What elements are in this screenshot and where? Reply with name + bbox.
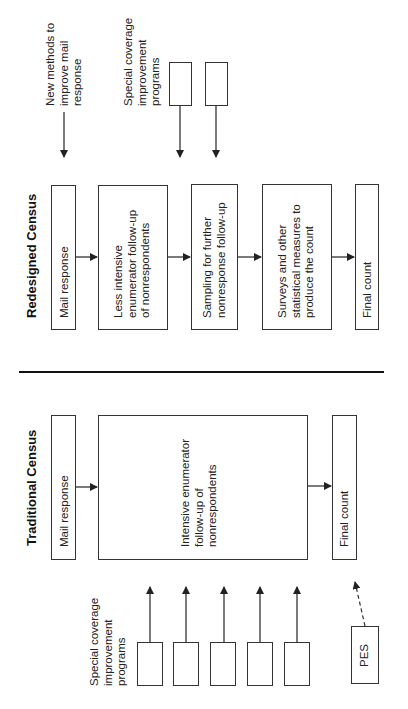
traditional-special-coverage-box-3: [210, 642, 236, 686]
label-line: PES: [358, 644, 372, 667]
label-line: Less intensive: [112, 210, 126, 318]
redesigned-special-coverage-box-2: [205, 62, 228, 106]
redesigned-title: Redesigned Census: [24, 194, 39, 318]
label-line: produce the count: [303, 204, 317, 318]
label-line: improvement: [102, 598, 116, 686]
redesigned-step-mail-response-label: Mail response: [58, 246, 72, 318]
traditional-step-final-count-label: Final count: [338, 491, 352, 547]
label-line: programs: [149, 18, 163, 106]
label-line: Special coverage: [88, 598, 102, 686]
label-line: follow-up of: [193, 439, 207, 547]
redesigned-step-sampling-label: Sampling for further nonresponse follow-…: [201, 202, 228, 318]
label-line: New methods to: [44, 23, 58, 106]
pes-label: PES: [358, 644, 372, 667]
label-line: Surveys and other: [276, 204, 290, 318]
label-line: Mail response: [58, 475, 72, 547]
traditional-step-intensive-followup-label: Intensive enumerator follow-up of nonres…: [179, 439, 220, 547]
new-methods-label: New methods to improve mail response: [44, 23, 85, 106]
traditional-special-coverage-box-1: [137, 642, 163, 686]
label-line: response: [71, 23, 85, 106]
connector-layer: [0, 0, 408, 709]
redesigned-step-surveys-label: Surveys and other statistical measures t…: [276, 204, 317, 318]
label-line: improvement: [136, 18, 150, 106]
redesigned-step-less-intensive-label: Less intensive enumerator follow-up of n…: [112, 210, 153, 318]
label-line: enumerator follow-up: [126, 210, 140, 318]
redesigned-special-coverage-label: Special coverage improvement programs: [122, 18, 163, 106]
traditional-special-coverage-box-5: [284, 642, 310, 686]
redesigned-step-final-count-label: Final count: [361, 262, 375, 318]
label-line: Sampling for further: [201, 202, 215, 318]
redesigned-special-coverage-box-1: [169, 62, 192, 106]
label-line: improve mail: [58, 23, 72, 106]
label-line: Final count: [338, 491, 352, 547]
label-line: Special coverage: [122, 18, 136, 106]
traditional-special-coverage-box-4: [247, 642, 273, 686]
label-line: statistical measures to: [290, 204, 304, 318]
traditional-title: Traditional Census: [24, 430, 39, 546]
traditional-special-coverage-label: Special coverage improvement programs: [88, 598, 129, 686]
traditional-step-mail-response-label: Mail response: [58, 475, 72, 547]
label-line: programs: [115, 598, 129, 686]
label-line: Intensive enumerator: [179, 439, 193, 547]
label-line: of nonrespondents: [139, 210, 153, 318]
label-line: Final count: [361, 262, 375, 318]
label-line: nonresponse follow-up: [215, 202, 229, 318]
label-line: nonrespondents: [206, 439, 220, 547]
label-line: Mail response: [58, 246, 72, 318]
traditional-special-coverage-box-2: [173, 642, 199, 686]
